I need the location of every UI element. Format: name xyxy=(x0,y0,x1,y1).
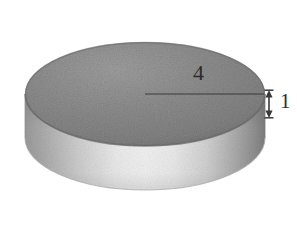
radius-dimension-label: 4 xyxy=(193,62,204,84)
height-dimension-label: 1 xyxy=(280,91,291,112)
height-arrow-head-down xyxy=(265,111,272,119)
height-arrow-head-up xyxy=(265,90,272,98)
cylinder-illustration xyxy=(0,0,297,250)
height-dimension-arrow xyxy=(265,90,274,118)
cylinder-figure: 4 1 xyxy=(0,0,297,250)
